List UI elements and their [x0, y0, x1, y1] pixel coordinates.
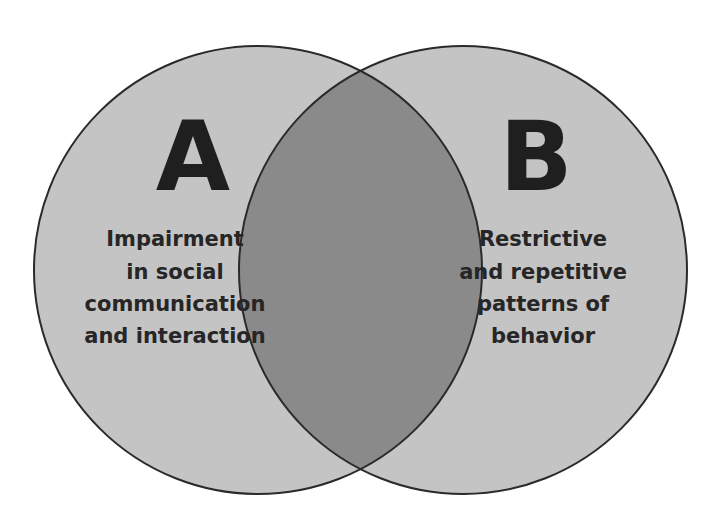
set-b-line: patterns of: [477, 292, 610, 316]
set-a-letter: A: [156, 101, 230, 213]
set-a-line: in social: [126, 260, 223, 284]
set-a-line: communication: [85, 292, 266, 316]
set-a-line: and interaction: [84, 324, 265, 348]
set-a-line: Impairment: [106, 227, 244, 251]
set-b-letter: B: [499, 101, 572, 213]
set-b-line: behavior: [491, 324, 596, 348]
set-b-line: Restrictive: [479, 227, 607, 251]
set-b-line: and repetitive: [459, 260, 627, 284]
venn-diagram: A B Impairment in social communication a…: [0, 0, 718, 510]
